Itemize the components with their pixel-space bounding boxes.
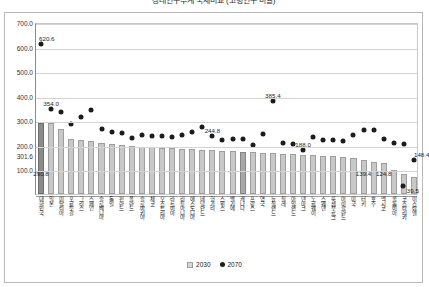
bar-4 (78, 140, 84, 194)
bar-1 (48, 123, 54, 194)
x-tick-label-16: 네덜란드 (199, 196, 204, 214)
x-tick-label-15: 에스토니아 (189, 196, 194, 219)
dot-33 (371, 128, 376, 133)
bar-22 (260, 153, 266, 194)
chart-title-cropped: 장래인구추계 국제비교 (고령인구 비율) (0, 0, 427, 9)
dot-22 (260, 132, 265, 137)
bar-21 (250, 152, 256, 194)
y-tick-label: 500.0 (17, 69, 33, 76)
dot-2 (59, 110, 64, 115)
x-tick-label-13: 라트비아 (168, 196, 173, 214)
dot-17 (210, 133, 215, 138)
x-tick-label-25: 아일랜드 (289, 196, 294, 214)
dot-7 (109, 129, 114, 134)
dot-23 (270, 99, 275, 104)
dot-label-0: 620.6 (39, 35, 54, 42)
y-tick-label: 300.0 (17, 118, 33, 125)
bar-9 (129, 146, 135, 194)
page-title: 장래인구추계 국제비교 (고령인구 비율) (0, 0, 427, 5)
x-tick-label-36: 코스타리카 (400, 196, 405, 219)
dot-tail-label: 39.5 (407, 187, 419, 194)
dot-37 (411, 157, 416, 162)
bar-0 (38, 123, 44, 194)
x-tick-label-32: 터키 (360, 196, 365, 205)
dot-30 (341, 138, 346, 143)
dot-label-37: 148.4 (414, 151, 429, 158)
dot-10 (139, 133, 144, 138)
gridline-200 (36, 147, 417, 148)
bar-29 (330, 156, 336, 194)
dot-24 (280, 140, 285, 145)
bar-20 (240, 152, 246, 194)
bar-34 (381, 163, 387, 194)
x-tick-label-11: 체코 (148, 196, 153, 205)
bar-24 (280, 154, 286, 194)
gridline-300 (36, 122, 417, 123)
dot-13 (170, 135, 175, 140)
x-tick-label-0: 대한민국 (37, 196, 42, 214)
x-tick-label-23: 뉴질랜드 (269, 196, 274, 214)
x-tick-label-7: 독일 (108, 196, 113, 205)
legend-item-2070[interactable]: 2070 (220, 261, 242, 268)
y-tick-label: 400.0 (17, 93, 33, 100)
x-tick-label-2: 이탈리아 (57, 196, 62, 214)
dot-9 (129, 135, 134, 140)
bar-8 (119, 145, 125, 194)
bar-6 (98, 143, 104, 194)
dot-5 (89, 108, 94, 113)
dot-18 (220, 138, 225, 143)
dot-8 (119, 130, 124, 135)
x-tick-label-14: 리투아니아 (178, 196, 183, 219)
bar-2 (58, 129, 64, 194)
x-tick-label-31: 미국 (350, 196, 355, 205)
x-axis-labels: 대한민국일본이탈리아포르투갈그리스스페인슬로베니아독일핀란드폴란드슬로바키아체코… (35, 196, 418, 256)
gridline-600 (36, 49, 417, 50)
x-tick-label-5: 스페인 (88, 196, 93, 210)
dot-26 (301, 147, 306, 152)
x-tick-label-26: 덴마크 (299, 196, 304, 210)
bar-25 (290, 154, 296, 194)
dot-12 (159, 134, 164, 139)
x-tick-label-18: 스위스 (219, 196, 224, 210)
bar-19 (230, 151, 236, 194)
chart-legend: 20302070 (5, 261, 424, 268)
dot-20 (240, 136, 245, 141)
dot-11 (149, 133, 154, 138)
x-tick-label-28: 스웨덴 (320, 196, 325, 210)
bar-26 (300, 155, 306, 194)
legend-label: 2030 (196, 261, 210, 268)
x-tick-label-1: 일본 (47, 196, 52, 205)
x-tick-label-8: 핀란드 (118, 196, 123, 210)
y-tick-label: 200.0 (17, 142, 33, 149)
legend-label: 2070 (228, 261, 242, 268)
y-axis: 100.0200.0300.0400.0500.0600.0700.0301.6 (5, 23, 33, 195)
x-tick-label-20: 캐나다 (239, 196, 244, 210)
bar-28 (320, 156, 326, 194)
dot-label-17: 244.8 (205, 127, 220, 134)
x-tick-label-17: 헝가리 (209, 196, 214, 210)
bar-10 (139, 147, 145, 194)
x-tick-label-30: 아이슬란드 (340, 196, 345, 219)
bar-5 (88, 141, 94, 194)
x-tick-label-6: 슬로베니아 (98, 196, 103, 219)
dot-label-1: 354.0 (43, 100, 58, 107)
x-tick-label-4: 그리스 (78, 196, 83, 210)
legend-item-2030[interactable]: 2030 (187, 261, 210, 268)
chart-frame: 100.0200.0300.0400.0500.0600.0700.0301.6… (4, 12, 423, 283)
dot-35 (391, 141, 396, 146)
dot-29 (331, 138, 336, 143)
x-tick-label-37: 이스라엘 (410, 196, 415, 214)
gridline-500 (36, 73, 417, 74)
legend-dot-swatch-icon (220, 262, 225, 267)
x-tick-label-10: 슬로바키아 (138, 196, 143, 219)
gridline-400 (36, 98, 417, 99)
dot-19 (230, 137, 235, 142)
dot-36 (401, 141, 406, 146)
y-tick-label: 600.0 (17, 44, 33, 51)
gridline-100 (36, 171, 417, 172)
x-tick-label-19: 벨기에 (229, 196, 234, 210)
dot-6 (99, 127, 104, 132)
x-tick-label-27: 노르웨이 (309, 196, 314, 214)
dot-15 (190, 129, 195, 134)
x-tick-label-21: 프랑스 (249, 196, 254, 210)
